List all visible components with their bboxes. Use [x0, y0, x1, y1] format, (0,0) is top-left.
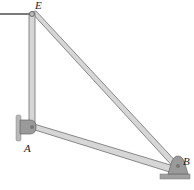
truss-diagram: E A B: [0, 0, 194, 190]
member-AB: [34, 124, 177, 174]
label-E: E: [34, 0, 42, 11]
label-B: B: [183, 155, 190, 167]
label-A: A: [23, 142, 31, 154]
member-EA: [29, 13, 35, 127]
pin-E: [30, 12, 35, 17]
